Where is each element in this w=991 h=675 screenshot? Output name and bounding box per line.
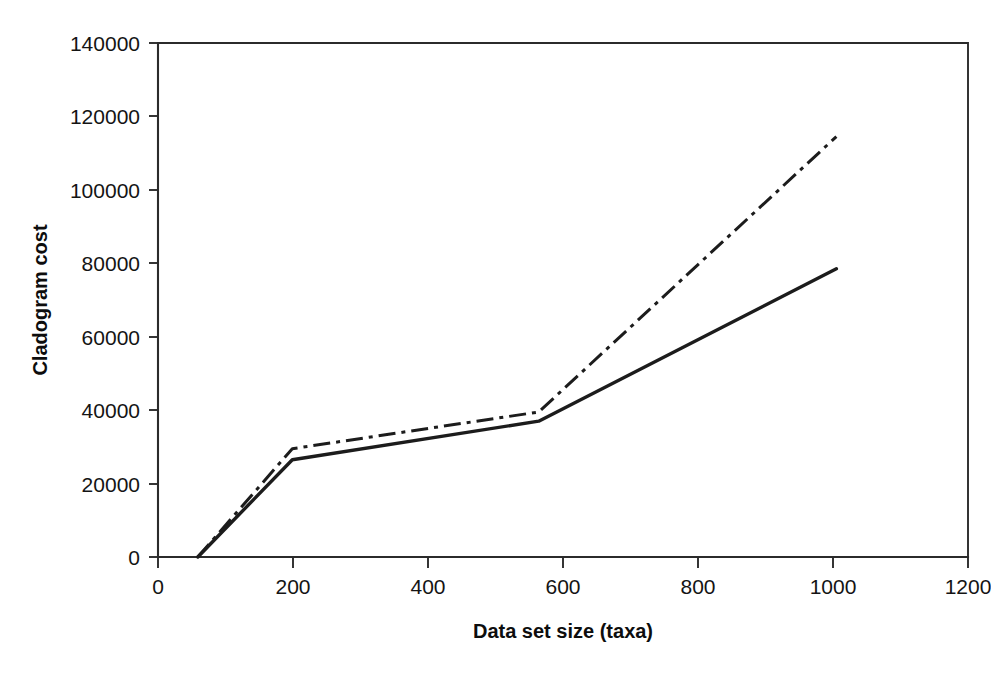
plot-frame	[158, 43, 968, 557]
y-axis-tick-labels: 140000 120000 100000 80000 60000 40000 2…	[70, 32, 140, 569]
x-tick-label: 0	[152, 575, 164, 598]
x-axis-ticks	[158, 557, 968, 568]
y-tick-label: 60000	[82, 326, 140, 349]
y-tick-label: 0	[128, 546, 140, 569]
x-axis-title: Data set size (taxa)	[473, 620, 653, 642]
x-tick-label: 1000	[810, 575, 857, 598]
y-tick-label: 80000	[82, 252, 140, 275]
x-tick-label: 200	[275, 575, 310, 598]
x-axis-tick-labels: 0 200 400 600 800 1000 1200	[152, 575, 991, 598]
series-dash-dot-line	[198, 137, 837, 557]
y-tick-label: 20000	[82, 473, 140, 496]
y-axis-ticks	[149, 43, 158, 557]
line-chart-canvas: 140000 120000 100000 80000 60000 40000 2…	[0, 0, 991, 675]
x-tick-label: 1200	[945, 575, 991, 598]
x-tick-label: 800	[680, 575, 715, 598]
y-tick-label: 100000	[70, 179, 140, 202]
y-tick-label: 40000	[82, 399, 140, 422]
chart-figure: 140000 120000 100000 80000 60000 40000 2…	[0, 0, 991, 675]
y-tick-label: 120000	[70, 105, 140, 128]
x-tick-label: 600	[545, 575, 580, 598]
data-series-group	[198, 137, 837, 557]
x-tick-label: 400	[410, 575, 445, 598]
series-solid-line	[198, 269, 837, 557]
y-tick-label: 140000	[70, 32, 140, 55]
y-axis-title: Cladogram cost	[29, 224, 51, 375]
